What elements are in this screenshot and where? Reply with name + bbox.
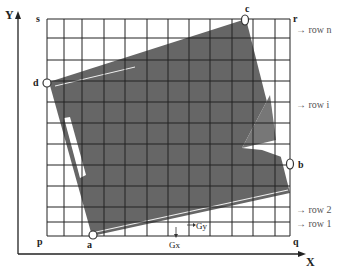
vertex-c-marker — [242, 15, 249, 25]
arrow-icon: → — [296, 218, 306, 229]
vertex-a-marker — [89, 231, 97, 239]
gy-label: Gy — [196, 221, 207, 231]
corner-p-label: p — [37, 237, 43, 247]
corner-q-label: q — [293, 237, 299, 247]
vertex-b-marker — [287, 159, 294, 169]
y-axis-label: Y — [5, 10, 14, 20]
x-axis-label: X — [306, 257, 315, 267]
row-i-label: → row i — [296, 100, 329, 110]
arrow-icon: → — [296, 24, 306, 35]
vertex-d-label: d — [33, 78, 39, 88]
row-n-label: → row n — [296, 25, 332, 35]
vertex-d-marker — [43, 79, 51, 87]
vertex-b-label: b — [298, 160, 304, 170]
arrow-icon: → — [296, 204, 306, 215]
vertex-c-label: c — [245, 4, 249, 14]
corner-s-label: s — [36, 14, 40, 24]
row-2-label: → row 2 — [296, 205, 332, 215]
row-1-label: → row 1 — [296, 219, 332, 229]
corner-r-label: r — [293, 14, 297, 24]
diagram-canvas — [0, 0, 342, 274]
arrow-icon: → — [296, 99, 306, 110]
vertex-a-label: a — [87, 240, 92, 250]
gx-label: Gx — [169, 240, 180, 250]
